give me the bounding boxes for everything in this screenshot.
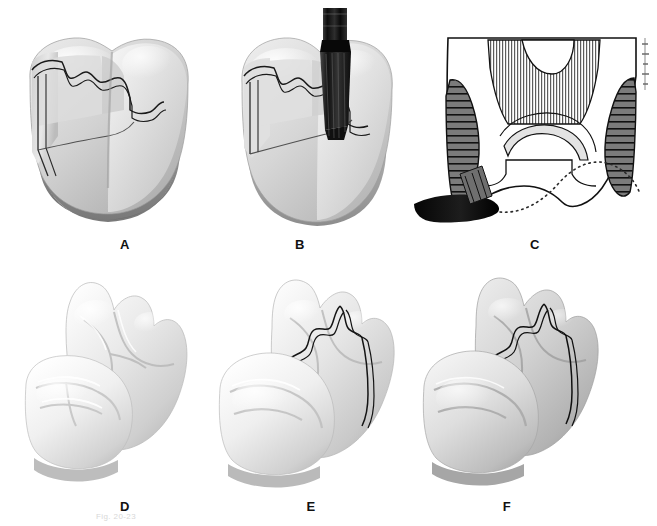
panel-f-outlined-models-shaded <box>418 276 643 491</box>
panel-label-f: F <box>492 499 522 514</box>
specular2-e-back <box>343 311 373 333</box>
distal-highlight-a <box>122 46 174 82</box>
bur-head-b <box>320 52 351 130</box>
panel-a-prepared-molar <box>8 18 208 233</box>
panel-label-b: B <box>285 237 315 252</box>
specular-f-back <box>488 298 528 326</box>
specular-e-back <box>284 300 324 328</box>
panel-a-artwork <box>8 18 208 233</box>
bur-head-c <box>414 194 499 222</box>
panel-d-artwork <box>22 276 237 491</box>
panel-e-outlined-models <box>218 276 433 491</box>
edge-tick-marks-c <box>642 38 649 90</box>
figure-root: A <box>0 0 657 526</box>
bur-shank-b <box>323 8 347 40</box>
panel-label-c: C <box>520 237 550 252</box>
panel-d-unprepared-models <box>22 276 237 491</box>
prep-pulpal-floor-b <box>250 59 313 128</box>
panel-f-artwork <box>418 276 643 491</box>
panel-b-molar-with-bur <box>222 8 412 233</box>
bur-collar-b <box>320 40 351 52</box>
figure-caption: Fig. 20-23 <box>96 512 136 521</box>
panel-c-artwork <box>412 16 652 236</box>
specular2-d-back <box>134 312 166 336</box>
panel-label-e: E <box>296 499 326 514</box>
specular-d-front <box>36 376 96 412</box>
panel-b-artwork <box>222 8 412 233</box>
specular-d-back <box>74 300 118 332</box>
specular2-f-back <box>547 309 577 331</box>
prep-pulpal-floor-a <box>38 55 103 126</box>
panel-e-artwork <box>218 276 433 491</box>
specular-e-front <box>232 380 296 420</box>
specular-f-front <box>436 378 500 418</box>
panel-c-cross-section <box>412 16 652 236</box>
panel-label-a: A <box>110 237 140 252</box>
